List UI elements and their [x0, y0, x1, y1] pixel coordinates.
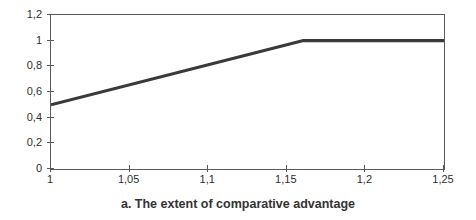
x-tick-label: 1,25: [432, 174, 453, 185]
y-tick-label: 0,4: [0, 111, 42, 122]
plot-canvas: [51, 15, 444, 169]
y-tick-label: 0,6: [0, 86, 42, 97]
x-tick-label: 1,1: [200, 174, 215, 185]
y-axis-tick: [47, 65, 54, 66]
x-axis-tick: [364, 165, 365, 172]
y-tick-label: 0,8: [0, 60, 42, 71]
y-axis-tick: [47, 14, 54, 15]
y-tick-label: 0,2: [0, 137, 42, 148]
x-axis-tick: [207, 165, 208, 172]
plot-area: [50, 14, 445, 170]
x-axis-tick: [50, 165, 51, 172]
y-axis-tick: [47, 117, 54, 118]
y-axis-tick: [47, 40, 54, 41]
y-axis-tick: [47, 91, 54, 92]
y-axis-tick: [47, 142, 54, 143]
x-tick-label: 1,2: [357, 174, 372, 185]
y-tick-label: 0: [0, 163, 42, 174]
chart-caption: a. The extent of comparative advantage: [0, 198, 476, 211]
x-axis-tick: [443, 165, 444, 172]
x-tick-label: 1: [47, 174, 53, 185]
x-axis-tick: [286, 165, 287, 172]
y-tick-label: 1: [0, 34, 42, 45]
line-chart: 00,20,40,60,811,2 11,051,11,151,21,25 a.…: [0, 0, 476, 220]
x-axis-tick: [129, 165, 130, 172]
x-tick-label: 1,05: [118, 174, 139, 185]
series-line: [51, 41, 444, 105]
y-tick-label: 1,2: [0, 9, 42, 20]
x-tick-label: 1,15: [275, 174, 296, 185]
